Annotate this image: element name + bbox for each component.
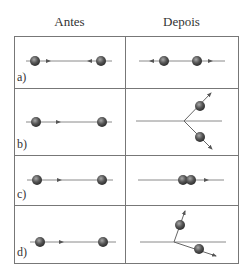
ball-2: [97, 175, 107, 185]
collision-diagram: [0, 0, 251, 278]
row-d-before: [30, 237, 116, 247]
ball-2: [195, 132, 205, 142]
row-c-before: [27, 175, 113, 185]
arrow-left-icon: [149, 59, 154, 63]
ball-1: [32, 175, 42, 185]
row-label-c: c): [17, 187, 26, 202]
row-b-after: [136, 93, 222, 149]
arrow-left-icon: [87, 59, 92, 63]
row-label-a: a): [17, 70, 26, 85]
ball-2: [192, 56, 202, 66]
ball-1: [195, 101, 205, 111]
row-d-after: [140, 211, 226, 256]
ball-1: [30, 56, 40, 66]
arrow-right-icon: [208, 59, 213, 63]
row-label-d: d): [17, 245, 27, 260]
arrow-right-icon: [46, 59, 51, 63]
ball-2: [97, 117, 107, 127]
ball-2: [96, 56, 106, 66]
row-b-before: [26, 117, 112, 127]
ball-2: [194, 244, 204, 254]
ball-1: [159, 56, 169, 66]
ball-1: [31, 117, 41, 127]
table-grid: [15, 37, 239, 264]
ball-1: [35, 237, 45, 247]
ball-2: [186, 175, 196, 185]
row-label-b: b): [17, 137, 27, 152]
row-a-before: [26, 56, 112, 66]
ball-2: [98, 237, 108, 247]
ball-1: [175, 220, 185, 230]
arrow-right-icon: [57, 178, 62, 182]
row-a-after: [139, 56, 225, 66]
row-c-after: [138, 175, 224, 185]
arrow-right-icon: [59, 240, 64, 244]
arrow-right-icon: [204, 178, 209, 182]
arrow-right-icon: [56, 120, 61, 124]
